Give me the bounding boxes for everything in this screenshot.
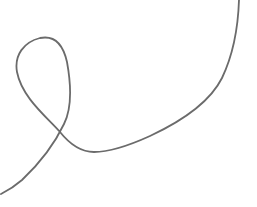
loop-curve-stroke xyxy=(1,0,239,194)
drawing-canvas xyxy=(0,0,257,207)
sketch-drawing xyxy=(0,0,257,207)
